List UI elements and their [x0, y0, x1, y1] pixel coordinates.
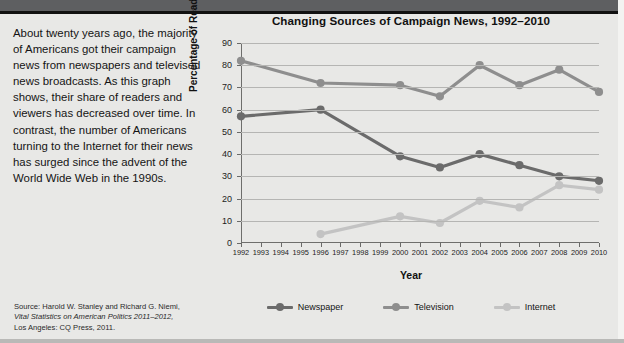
y-tick-mark — [237, 110, 241, 111]
y-tick-label: 80 — [210, 60, 232, 70]
y-tick-label: 10 — [210, 216, 232, 226]
x-tick-mark — [261, 243, 262, 247]
x-tick-label: 1992 — [233, 248, 249, 257]
legend-marker-icon — [383, 302, 409, 312]
x-tick-mark — [559, 243, 560, 247]
data-point-internet — [515, 203, 523, 211]
x-tick-label: 1995 — [292, 248, 308, 257]
y-tick-label: 50 — [210, 127, 232, 137]
y-tick-mark — [237, 221, 241, 222]
figure-page: About twenty years ago, the majority of … — [0, 0, 624, 343]
data-point-internet — [396, 212, 404, 220]
data-point-television — [555, 66, 563, 74]
legend-label: Newspaper — [298, 302, 344, 312]
legend-label: Internet — [525, 302, 556, 312]
y-axis-title: Percentage of Readers/Viewers — [188, 0, 199, 92]
data-point-newspaper — [515, 161, 523, 169]
series-line-internet — [321, 185, 599, 234]
grid-line — [241, 43, 599, 44]
x-tick-label: 1997 — [332, 248, 348, 257]
series-line-newspaper — [241, 110, 599, 181]
x-tick-label: 2007 — [531, 248, 547, 257]
y-tick-mark — [237, 243, 241, 244]
data-point-internet — [595, 186, 603, 194]
x-tick-label: 2008 — [551, 248, 567, 257]
legend-marker-icon — [494, 302, 520, 312]
chart-title: Changing Sources of Campaign News, 1992–… — [205, 14, 617, 27]
x-tick-mark — [400, 243, 401, 247]
x-tick-label: 2003 — [452, 248, 468, 257]
grid-line — [241, 87, 599, 88]
y-tick-label: 40 — [210, 149, 232, 159]
grid-line — [241, 132, 599, 133]
x-tick-label: 2009 — [571, 248, 587, 257]
data-point-newspaper — [436, 163, 444, 171]
chart-legend: NewspaperTelevisionInternet — [205, 302, 617, 312]
y-tick-label: 0 — [210, 238, 232, 248]
x-tick-label: 2005 — [491, 248, 507, 257]
x-tick-mark — [281, 243, 282, 247]
x-tick-mark — [480, 243, 481, 247]
grid-line — [241, 154, 599, 155]
x-tick-mark — [301, 243, 302, 247]
plot-area: 1992199319941995199619971998199920002001… — [241, 43, 599, 243]
x-tick-mark — [360, 243, 361, 247]
source-citation: Source: Harold W. Stanley and Richard G.… — [14, 302, 219, 333]
y-tick-mark — [237, 154, 241, 155]
x-tick-label: 1996 — [312, 248, 328, 257]
x-tick-mark — [380, 243, 381, 247]
x-tick-label: 2002 — [432, 248, 448, 257]
legend-item-internet[interactable]: Internet — [494, 302, 556, 312]
y-tick-label: 20 — [210, 194, 232, 204]
data-point-internet — [555, 181, 563, 189]
x-tick-label: 2000 — [392, 248, 408, 257]
x-tick-label: 1999 — [372, 248, 388, 257]
y-tick-mark — [237, 199, 241, 200]
x-tick-mark — [539, 243, 540, 247]
x-tick-mark — [519, 243, 520, 247]
legend-item-television[interactable]: Television — [383, 302, 454, 312]
x-tick-label: 2004 — [471, 248, 487, 257]
y-tick-mark — [237, 65, 241, 66]
chart-container: Changing Sources of Campaign News, 1992–… — [205, 14, 617, 336]
page-right-edge — [618, 0, 624, 343]
caption-paragraph: About twenty years ago, the majority of … — [13, 25, 203, 186]
x-tick-label: 1994 — [273, 248, 289, 257]
grid-line — [241, 65, 599, 66]
data-point-television — [316, 79, 324, 87]
y-tick-label: 70 — [210, 82, 232, 92]
page-bottom-edge — [0, 339, 624, 343]
data-point-television — [237, 57, 245, 65]
x-tick-mark — [579, 243, 580, 247]
data-point-television — [436, 92, 444, 100]
series-lines — [241, 43, 599, 243]
y-tick-mark — [237, 132, 241, 133]
data-point-internet — [316, 230, 324, 238]
x-axis-title: Year — [205, 269, 617, 281]
x-tick-mark — [321, 243, 322, 247]
data-point-television — [595, 88, 603, 96]
data-point-newspaper — [595, 177, 603, 185]
grid-line — [241, 110, 599, 111]
x-tick-mark — [500, 243, 501, 247]
grid-line — [241, 221, 599, 222]
top-header-bar — [0, 0, 624, 11]
legend-item-newspaper[interactable]: Newspaper — [267, 302, 344, 312]
grid-line — [241, 199, 599, 200]
x-tick-label: 1998 — [352, 248, 368, 257]
x-axis-ticks: 1992199319941995199619971998199920002001… — [241, 243, 599, 265]
x-tick-mark — [460, 243, 461, 247]
legend-marker-icon — [267, 302, 293, 312]
x-tick-label: 2001 — [412, 248, 428, 257]
data-point-newspaper — [237, 112, 245, 120]
y-tick-mark — [237, 176, 241, 177]
x-tick-label: 2010 — [591, 248, 607, 257]
grid-line — [241, 176, 599, 177]
y-tick-label: 90 — [210, 38, 232, 48]
legend-label: Television — [414, 302, 454, 312]
x-tick-label: 1993 — [253, 248, 269, 257]
x-tick-mark — [599, 243, 600, 247]
y-tick-label: 60 — [210, 105, 232, 115]
y-tick-mark — [237, 43, 241, 44]
source-line-2: Vital Statistics on American Politics 20… — [14, 312, 219, 322]
